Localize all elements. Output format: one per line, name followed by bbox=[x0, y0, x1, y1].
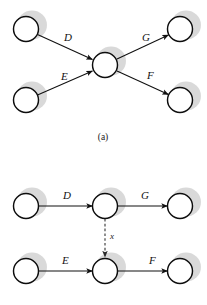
graph-figure: D E G F (a) bbox=[0, 0, 207, 305]
edge-label-b-D: D bbox=[62, 189, 71, 201]
graph-node[interactable] bbox=[168, 259, 193, 284]
graph-node[interactable] bbox=[168, 88, 193, 113]
graph-node[interactable] bbox=[93, 259, 118, 284]
graph-node[interactable] bbox=[14, 259, 39, 284]
graph-node[interactable] bbox=[14, 17, 39, 42]
edge-label-b-x: x bbox=[109, 231, 114, 241]
graph-node[interactable] bbox=[93, 194, 118, 219]
figure-caption-a: (a) bbox=[98, 132, 109, 143]
graph-node[interactable] bbox=[168, 17, 193, 42]
figure-root: D E G F (a) bbox=[0, 0, 207, 305]
edge-label-a-F: F bbox=[146, 69, 154, 81]
edge-label-a-G: G bbox=[142, 31, 150, 43]
graph-node[interactable] bbox=[93, 53, 118, 78]
edge-label-a-D: D bbox=[63, 31, 72, 43]
edge-label-b-E: E bbox=[61, 254, 69, 266]
graph-node[interactable] bbox=[14, 194, 39, 219]
edge-label-b-G: G bbox=[141, 189, 149, 201]
edge-label-a-E: E bbox=[60, 70, 68, 82]
edge-a-F bbox=[117, 71, 169, 95]
graph-node[interactable] bbox=[168, 194, 193, 219]
graph-node[interactable] bbox=[14, 88, 39, 113]
edge-label-b-F: F bbox=[148, 254, 156, 266]
